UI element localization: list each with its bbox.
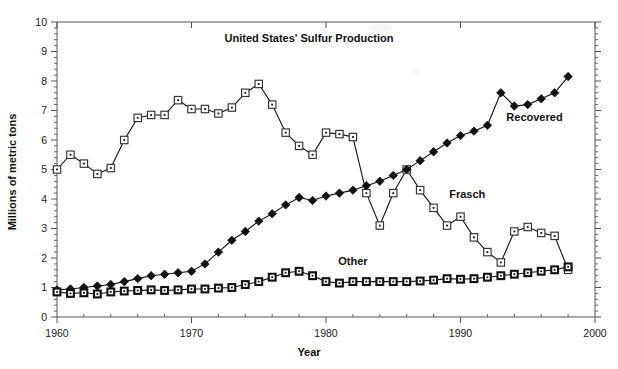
- data-point-center: [204, 108, 206, 110]
- data-point-center: [177, 99, 179, 101]
- y-tick-label: 6: [41, 134, 47, 146]
- data-point-center: [460, 216, 462, 218]
- data-point-center: [164, 290, 166, 292]
- y-axis-title: Millions of metric tons: [6, 114, 18, 231]
- data-point-center: [258, 281, 260, 283]
- x-tick-label: 1960: [45, 327, 69, 339]
- data-point-center: [527, 226, 529, 228]
- data-point-center: [325, 132, 327, 134]
- data-point-center: [540, 270, 542, 272]
- data-point-center: [298, 270, 300, 272]
- y-tick-label: 5: [41, 163, 47, 175]
- data-point-center: [244, 92, 246, 94]
- data-point-center: [460, 278, 462, 280]
- data-point-center: [487, 251, 489, 253]
- data-point-center: [339, 282, 341, 284]
- data-point-center: [110, 167, 112, 169]
- page-title: United States' Sulfur Production: [225, 32, 394, 44]
- x-tick-label: 2000: [583, 327, 607, 339]
- data-point-center: [231, 287, 233, 289]
- series-label-other: Other: [338, 255, 368, 267]
- data-point-center: [352, 136, 354, 138]
- data-point-center: [433, 207, 435, 209]
- y-tick-label: 3: [41, 222, 47, 234]
- data-point-center: [150, 114, 152, 116]
- data-point-center: [513, 231, 515, 233]
- data-point-center: [365, 281, 367, 283]
- data-point-center: [70, 154, 72, 156]
- data-point-center: [271, 276, 273, 278]
- y-tick-label: 8: [41, 75, 47, 87]
- data-point-center: [527, 272, 529, 274]
- data-point-center: [446, 278, 448, 280]
- series-label-frasch: Frasch: [449, 188, 485, 200]
- data-point-center: [298, 145, 300, 147]
- x-tick-label: 1990: [449, 327, 473, 339]
- data-point-center: [379, 225, 381, 227]
- x-tick-label: 1980: [314, 327, 338, 339]
- data-point-center: [513, 273, 515, 275]
- data-point-center: [123, 290, 125, 292]
- y-tick-label: 1: [41, 281, 47, 293]
- data-point-center: [392, 192, 394, 194]
- data-point-center: [487, 276, 489, 278]
- data-point-center: [392, 281, 394, 283]
- data-point-center: [500, 275, 502, 277]
- data-point-center: [554, 235, 556, 237]
- sulfur-production-line-chart: 19601970198019902000 012345678910 Frasch…: [0, 0, 618, 369]
- data-point-center: [204, 288, 206, 290]
- data-point-center: [446, 225, 448, 227]
- data-point-center: [150, 289, 152, 291]
- data-point-center: [473, 236, 475, 238]
- data-point-center: [218, 287, 220, 289]
- x-tick-label: 1970: [180, 327, 204, 339]
- data-point-center: [83, 163, 85, 165]
- data-point-center: [56, 291, 58, 293]
- data-point-center: [339, 133, 341, 135]
- data-point-center: [191, 288, 193, 290]
- data-point-center: [191, 108, 193, 110]
- data-point-center: [312, 275, 314, 277]
- data-point-center: [231, 107, 233, 109]
- x-axis-title: Year: [297, 346, 321, 358]
- data-point-center: [96, 293, 98, 295]
- data-point-center: [56, 169, 58, 171]
- data-point-center: [473, 278, 475, 280]
- data-point-center: [419, 189, 421, 191]
- y-tick-label: 4: [41, 193, 47, 205]
- data-point-center: [123, 139, 125, 141]
- data-point-center: [567, 266, 569, 268]
- data-point-center: [406, 281, 408, 283]
- data-point-center: [218, 113, 220, 115]
- data-point-center: [96, 173, 98, 175]
- data-point-center: [70, 293, 72, 295]
- data-point-center: [325, 281, 327, 283]
- y-tick-label: 2: [41, 252, 47, 264]
- data-point-center: [271, 104, 273, 106]
- data-point-center: [110, 291, 112, 293]
- data-point-center: [379, 281, 381, 283]
- data-point-center: [352, 281, 354, 283]
- y-tick-label: 9: [41, 45, 47, 57]
- data-point-center: [540, 232, 542, 234]
- data-point-center: [177, 289, 179, 291]
- data-point-center: [433, 279, 435, 281]
- data-point-center: [554, 269, 556, 271]
- data-point-center: [83, 292, 85, 294]
- data-point-center: [258, 83, 260, 85]
- y-tick-label: 7: [41, 104, 47, 116]
- y-tick-label: 0: [41, 311, 47, 323]
- data-point-center: [312, 154, 314, 156]
- data-point-center: [419, 280, 421, 282]
- data-point-center: [285, 272, 287, 274]
- chart-background: [0, 0, 618, 369]
- data-point-center: [285, 132, 287, 134]
- data-point-center: [244, 284, 246, 286]
- data-point-center: [164, 114, 166, 116]
- chart-container: 19601970198019902000 012345678910 Frasch…: [0, 0, 618, 369]
- series-label-recovered: Recovered: [506, 111, 562, 123]
- y-tick-label: 10: [35, 16, 47, 28]
- data-point-center: [137, 290, 139, 292]
- data-point-center: [500, 262, 502, 264]
- data-point-center: [137, 117, 139, 119]
